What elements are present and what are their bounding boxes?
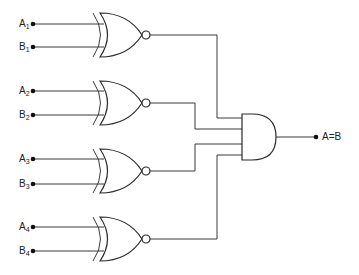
label-a2: A2	[19, 86, 30, 99]
output-label: A=B	[322, 132, 341, 142]
input-node-a2	[31, 89, 36, 94]
input-node-a4	[31, 225, 36, 230]
xnor-gate-2	[31, 81, 242, 129]
label-b3: B3	[19, 179, 30, 192]
label-a3: A3	[19, 154, 30, 167]
label-b4: B4	[19, 246, 30, 259]
label-b1: B1	[19, 42, 30, 55]
label-a4: A4	[19, 222, 30, 235]
label-b2: B2	[19, 110, 30, 123]
input-node-a3	[31, 157, 36, 162]
input-node-b4	[31, 249, 36, 254]
xnor-gate-3	[31, 144, 242, 193]
input-node-b3	[31, 182, 36, 187]
output-node	[314, 135, 319, 140]
input-node-b2	[31, 113, 36, 118]
and-gate	[242, 114, 318, 160]
input-node-b1	[31, 45, 36, 50]
label-a1: A1	[19, 19, 30, 32]
input-node-a1	[31, 22, 36, 27]
comparator-circuit	[0, 0, 359, 275]
